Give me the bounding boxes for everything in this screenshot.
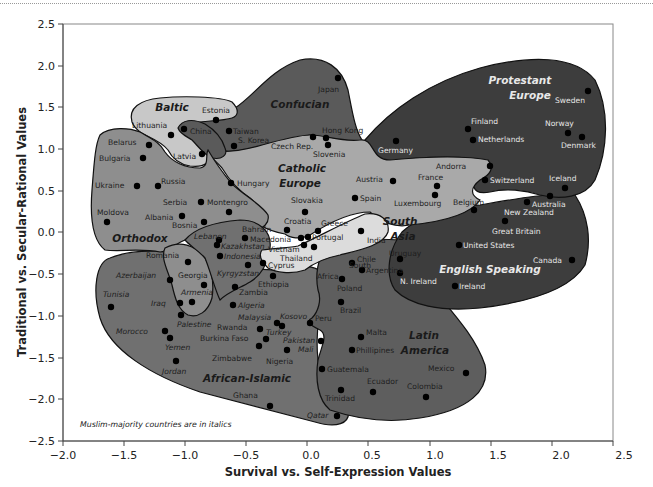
point-macedonia <box>298 235 304 241</box>
point-portugal <box>305 234 311 240</box>
x-tick-label: −1.0 <box>172 449 199 462</box>
point-montenegro <box>226 209 232 215</box>
point-norway <box>565 130 571 136</box>
point-belgium <box>471 207 477 213</box>
point-palestine <box>178 312 184 318</box>
label-finland: Finland <box>471 117 498 126</box>
label-morocco: Morocco <box>116 327 148 336</box>
point-poland <box>339 276 345 282</box>
point-indonesia <box>217 253 223 259</box>
label-mexico: Mexico <box>428 364 455 373</box>
label-africa: Africa <box>317 272 339 281</box>
y-tick-label: 0.0 <box>38 226 56 239</box>
point-hong-kong <box>323 135 329 141</box>
label-s-korea: S. Korea <box>238 136 269 145</box>
point-zambia <box>232 284 238 290</box>
point-ukraine <box>134 183 140 189</box>
point-ecuador <box>370 389 376 395</box>
label-hong-kong: Hong Kong <box>322 126 363 135</box>
point-andorra <box>487 163 493 169</box>
y-tick-label: 1.0 <box>38 143 56 156</box>
point-serbia <box>198 199 204 205</box>
label-sweden: Sweden <box>555 96 585 105</box>
label-qatar: Qatar <box>307 411 329 420</box>
point-spain <box>352 195 358 201</box>
y-axis: 2.5 2.0 1.5 1.0 0.5 0.0 −0.5 −1.0 −1.5 −… <box>15 18 63 448</box>
label-iraq: Iraq <box>151 299 166 308</box>
point-thailand <box>311 244 317 250</box>
region-label-catholic-1: Catholic <box>278 162 327 174</box>
label-france: France <box>418 173 444 182</box>
label-belgium: Belgium <box>453 198 484 207</box>
y-tick-label: 1.5 <box>38 101 56 114</box>
point-kyrgyzstan <box>245 262 251 268</box>
label-serbia: Serbia <box>163 198 187 207</box>
point-finland <box>465 126 471 132</box>
label-china: China <box>190 127 212 136</box>
label-georgia: Georgia <box>178 271 208 280</box>
label-rwanda: Rwanda <box>217 323 247 332</box>
label-estonia: Estonia <box>202 106 230 115</box>
point-tunisia <box>108 304 114 310</box>
y-tick-label: −2.0 <box>28 393 55 406</box>
point-burkina-faso <box>256 343 262 349</box>
point-croatia <box>284 227 290 233</box>
x-tick-marks <box>63 441 613 446</box>
point-luxembourg <box>432 192 438 198</box>
label-kazakhstan: Kazakhstan <box>221 242 265 251</box>
point-brazil <box>338 299 344 305</box>
point-china <box>181 126 187 132</box>
point-denmark <box>579 134 585 140</box>
label-poland: Poland <box>337 284 363 293</box>
point-latvia <box>199 151 205 157</box>
point-mexico <box>463 370 469 376</box>
label-spain: Spain <box>360 194 381 203</box>
point-iceland <box>562 185 568 191</box>
label-andorra: Andorra <box>436 162 466 171</box>
point-slovenia <box>325 142 331 148</box>
label-n-ireland: N. Ireland <box>400 277 437 286</box>
x-axis-label: Survival vs. Self-Expression Values <box>225 465 452 479</box>
point-rwanda <box>257 326 263 332</box>
point-sweden <box>585 88 591 94</box>
label-austria: Austria <box>356 175 383 184</box>
region-label-latin-2: America <box>400 344 449 356</box>
label-malta: Malta <box>366 328 387 337</box>
point-japan <box>335 75 341 81</box>
label-guatemala: Guatemala <box>327 365 369 374</box>
label-germany: Germany <box>378 146 413 155</box>
label-zimbabwe: Zimbabwe <box>212 354 252 363</box>
point-slovakia <box>302 209 308 215</box>
region-label-latin-1: Latin <box>409 329 439 341</box>
label-russia: Russia <box>161 177 185 186</box>
label-nigeria: Nigeria <box>266 357 293 366</box>
region-label-english-speaking: English Speaking <box>439 263 541 275</box>
y-tick-label: −0.5 <box>28 268 55 281</box>
point-malta <box>358 334 364 340</box>
label-lithuania: Lithuania <box>132 121 167 130</box>
label-japan: Japan <box>317 85 339 94</box>
x-tick-label: −2.0 <box>50 449 77 462</box>
label-great-britain: Great Britain <box>492 227 541 236</box>
point-belarus <box>146 142 152 148</box>
point-czech-rep <box>310 134 316 140</box>
label-netherlands: Netherlands <box>478 135 524 144</box>
x-tick-label: 0.0 <box>302 449 320 462</box>
point-pakistan <box>318 338 324 344</box>
point-germany <box>393 138 399 144</box>
label-peru: Peru <box>315 314 332 323</box>
cultural-map-chart: 2.5 2.0 1.5 1.0 0.5 0.0 −0.5 −1.0 −1.5 −… <box>0 0 653 487</box>
label-bulgaria: Bulgaria <box>99 154 131 163</box>
y-tick-label: −1.0 <box>28 310 55 323</box>
region-label-south-asia-2: Asia <box>389 230 415 242</box>
label-luxembourg: Luxembourg <box>394 199 442 208</box>
point-bulgaria <box>140 155 146 161</box>
point-phillipines <box>349 347 355 353</box>
region-label-baltic: Baltic <box>155 101 189 113</box>
label-bahrain: Bahrain <box>242 225 272 234</box>
point-great-britain <box>502 218 508 224</box>
point-france <box>434 183 440 189</box>
point-peru <box>307 320 313 326</box>
label-denmark: Denmark <box>561 141 597 150</box>
point-iraq <box>177 300 183 306</box>
